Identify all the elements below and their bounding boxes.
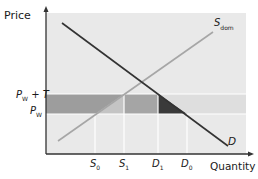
x-axis-label: Quantity	[210, 160, 255, 172]
demand-label: D	[228, 135, 236, 147]
pwt-label: PW + T	[16, 89, 50, 102]
s1-label: S1	[119, 158, 129, 171]
y-axis-label: Price	[4, 9, 31, 22]
y-axis-arrow-icon	[44, 6, 49, 12]
pw-label: PW	[30, 105, 42, 118]
d1-label: D1	[152, 158, 164, 171]
tariff-chart: Price Quantity D Sdom PW + T PW S0 S1 D1…	[0, 0, 258, 179]
d0-label: D0	[181, 158, 193, 171]
s0-label: S0	[90, 158, 100, 171]
tariff-revenue-rectangle	[124, 94, 158, 114]
x-axis-arrow-icon	[248, 152, 254, 157]
